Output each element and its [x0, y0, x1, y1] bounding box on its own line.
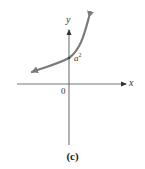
y-intercept-point — [68, 57, 70, 59]
origin-label: 0 — [61, 87, 66, 96]
figure-caption: (c) — [0, 150, 145, 162]
y-intercept-exponent: 2 — [79, 52, 82, 58]
graph-canvas — [0, 0, 145, 169]
y-axis-label: y — [66, 15, 70, 25]
y-intercept-label: a2 — [74, 52, 82, 63]
exponential-curve — [32, 17, 89, 72]
x-axis-label: x — [129, 78, 133, 88]
graph-figure: y x 0 a2 — [0, 0, 145, 169]
